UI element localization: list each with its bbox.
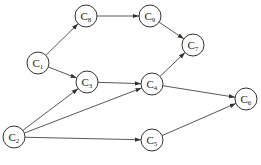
- node-subscript: 5: [154, 140, 158, 148]
- node-c8: C8: [75, 5, 97, 27]
- edge-c4-to-c7: [160, 53, 185, 77]
- edge-c5-to-c6: [162, 103, 236, 135]
- edge-c1-to-c8: [46, 24, 78, 56]
- edges: [23, 16, 236, 140]
- edge-c4-to-c6: [163, 86, 235, 98]
- node-c1: C1: [27, 52, 49, 74]
- node-c3: C3: [76, 71, 98, 93]
- edge-c3-to-c4: [98, 82, 141, 83]
- node-letter: C: [82, 76, 89, 88]
- dependency-graph: C1C2C3C4C5C6C7C8C9: [0, 0, 261, 165]
- node-letter: C: [147, 134, 154, 146]
- node-c6: C6: [235, 88, 257, 110]
- node-c4: C4: [141, 73, 163, 95]
- node-letter: C: [188, 39, 195, 51]
- node-subscript: 8: [88, 16, 92, 24]
- edge-c2-to-c5: [25, 137, 141, 140]
- node-subscript: 1: [40, 63, 44, 71]
- node-c5: C5: [141, 129, 163, 151]
- node-subscript: 7: [195, 45, 199, 53]
- edge-c1-to-c3: [48, 67, 76, 78]
- node-subscript: 4: [154, 84, 158, 92]
- node-subscript: 2: [16, 137, 20, 145]
- node-letter: C: [81, 10, 88, 22]
- edge-c9-to-c7: [159, 22, 184, 39]
- node-letter: C: [147, 78, 154, 90]
- node-letter: C: [241, 93, 248, 105]
- edge-c2-to-c4: [24, 88, 141, 133]
- nodes: C1C2C3C4C5C6C7C8C9: [3, 5, 257, 151]
- node-subscript: 3: [89, 82, 93, 90]
- node-letter: C: [33, 57, 40, 69]
- node-subscript: 6: [248, 99, 252, 107]
- edge-c2-to-c3: [23, 89, 78, 131]
- node-c7: C7: [182, 34, 204, 56]
- node-c2: C2: [3, 126, 25, 148]
- node-c9: C9: [139, 5, 161, 27]
- node-letter: C: [9, 131, 16, 143]
- node-letter: C: [145, 10, 152, 22]
- node-subscript: 9: [152, 16, 156, 24]
